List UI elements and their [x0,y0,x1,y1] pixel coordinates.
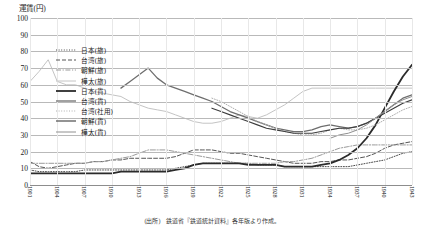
legend-swatch-2 [55,56,77,64]
y-tick-label-60: 60 [2,80,28,89]
x-tick-label-1940: 1940 [381,186,388,197]
legend-label-9: 樺太(貨) [81,127,106,137]
x-axis-labels: 1901190419071910191319161919192219251928… [30,186,412,214]
x-tick-label-1916: 1916 [163,186,170,197]
x-gridline-1925 [248,18,249,185]
legend-swatch-5 [55,87,77,95]
legend-label-5: 日本(貨) [81,86,106,96]
x-tick-label-1919: 1919 [190,186,197,197]
chart-root: 運賃(円) 0102030405060708090100 19011904190… [0,0,425,229]
x-tick-label-1910: 1910 [108,186,115,197]
legend-swatch-6 [55,97,77,105]
x-gridline-1919 [194,18,195,185]
x-tick-label-1928: 1928 [272,186,279,197]
x-gridline-1928 [276,18,277,185]
chart-legend: 日本(旅)台湾(旅)朝鮮(旅)樺太(旅)日本(貨)台湾(貨)台湾(社用)朝鮮(貨… [55,45,141,137]
x-tick-label-1937: 1937 [354,186,361,197]
legend-item-2: 台湾(旅) [55,55,141,65]
x-gridline-1931 [303,18,304,185]
x-gridline-1940 [385,18,386,185]
legend-label-2: 台湾(旅) [81,55,106,65]
x-tick-label-1901: 1901 [27,186,34,197]
legend-item-4: 樺太(旅) [55,76,141,86]
x-tick-label-1931: 1931 [299,186,306,197]
legend-item-7: 台湾(社用) [55,106,141,116]
x-gridline-1937 [357,18,358,185]
x-tick-label-1925: 1925 [245,186,252,197]
x-gridline-1943 [412,18,413,185]
legend-item-5: 日本(貨) [55,86,141,96]
x-tick-label-1943: 1943 [409,186,416,197]
legend-swatch-1 [55,46,77,54]
legend-label-6: 台湾(貨) [81,96,106,106]
legend-label-4: 樺太(旅) [81,76,106,86]
y-tick-label-80: 80 [2,47,28,56]
legend-item-8: 朝鮮(貨) [55,116,141,126]
legend-label-8: 朝鮮(貨) [81,116,106,126]
y-tick-label-90: 90 [2,30,28,39]
legend-swatch-3 [55,66,77,74]
legend-swatch-8 [55,117,77,125]
y-tick-label-30: 30 [2,130,28,139]
y-tick-label-50: 50 [2,97,28,106]
legend-swatch-9 [55,128,77,136]
x-gridline-1901 [30,18,31,185]
y-tick-label-70: 70 [2,64,28,73]
legend-item-3: 朝鮮(旅) [55,65,141,75]
x-tick-label-1934: 1934 [327,186,334,197]
legend-label-7: 台湾(社用) [81,106,113,116]
y-tick-label-100: 100 [2,14,28,23]
legend-label-1: 日本(旅) [81,45,106,55]
x-tick-label-1907: 1907 [81,186,88,197]
legend-swatch-4 [55,77,77,85]
x-gridline-1922 [221,18,222,185]
y-tick-label-40: 40 [2,114,28,123]
x-tick-label-1913: 1913 [136,186,143,197]
y-axis-title: 運賃(円) [19,2,46,13]
legend-item-9: 樺太(貨) [55,127,141,137]
x-tick-label-1904: 1904 [54,186,61,197]
y-tick-label-20: 20 [2,147,28,156]
legend-label-3: 朝鮮(旅) [81,65,106,75]
y-axis-labels: 0102030405060708090100 [0,18,28,185]
chart-caption: (出所) 鉄道省『鉄道統計資料』各年版より作成。 [0,216,425,229]
y-tick-label-0: 0 [2,181,28,190]
legend-item-1: 日本(旅) [55,45,141,55]
legend-item-6: 台湾(貨) [55,96,141,106]
y-tick-label-10: 10 [2,164,28,173]
x-tick-label-1922: 1922 [218,186,225,197]
legend-swatch-7 [55,107,77,115]
x-gridline-1934 [330,18,331,185]
x-gridline-1916 [166,18,167,185]
